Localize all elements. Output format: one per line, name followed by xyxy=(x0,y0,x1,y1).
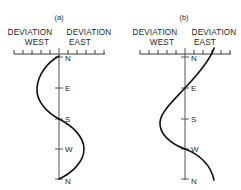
panel-a-label-n-top: N xyxy=(65,54,71,63)
panel-b-header-east: DEVIATION xyxy=(192,28,237,37)
panel-b-caption: (b) xyxy=(179,13,189,22)
panel-b-label-s: S xyxy=(191,115,196,124)
panel-a-header-west: DEVIATION xyxy=(8,28,53,37)
deviation-curves-figure: (a) DEVIATION DEVIATION WEST EAST xyxy=(0,0,241,190)
panel-b-label-e: E xyxy=(191,84,196,93)
panel-b-label-n-bottom: N xyxy=(191,177,197,186)
panel-a-sub-east: EAST xyxy=(69,38,91,47)
panel-a-deviation-curve xyxy=(37,56,84,179)
panel-a-axis xyxy=(55,48,63,180)
panel-b-deviation-curve xyxy=(160,48,214,180)
panel-b-header-west: DEVIATION xyxy=(133,28,178,37)
panel-a-label-w: W xyxy=(65,145,73,154)
panel-a-label-e: E xyxy=(65,84,70,93)
panel-b-axis xyxy=(181,48,189,180)
panel-b-label-n-top: N xyxy=(191,54,197,63)
panel-b-sub-west: WEST xyxy=(150,38,174,47)
panel-a-header-east: DEVIATION xyxy=(67,28,112,37)
panel-a: (a) DEVIATION DEVIATION WEST EAST xyxy=(8,13,112,186)
panel-a-sub-west: WEST xyxy=(25,38,49,47)
panel-a-caption: (a) xyxy=(54,13,64,22)
panel-b: (b) DEVIATION DEVIATION WEST EAST xyxy=(133,13,237,186)
panel-a-label-n-bottom: N xyxy=(65,177,71,186)
panel-b-sub-east: EAST xyxy=(194,38,216,47)
